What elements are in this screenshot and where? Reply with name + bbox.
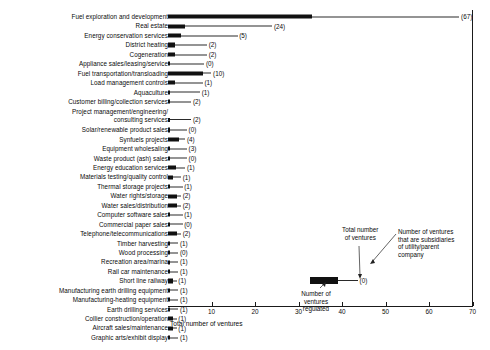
bar-row: Collier construction/operation(1) [0, 314, 490, 323]
subsidiary-count-label: (0) [180, 250, 188, 256]
bar-row: Solar/renewable product sales(0) [0, 125, 490, 134]
bar-row: Fuel transportation/transloading(10) [0, 69, 490, 78]
bar-row: Rail car maintenance(1) [0, 267, 490, 276]
bar-row: Waste product (ash) sales(0) [0, 154, 490, 163]
bar-group: (3) [168, 144, 196, 153]
subsidiary-count-label: (1) [202, 89, 210, 95]
regulated-segment [168, 15, 312, 19]
total-line-segment [179, 139, 186, 140]
category-label: Customer billing/collection services [0, 98, 168, 105]
annotation-regulated-note: Number of ventures regulated [288, 290, 344, 313]
annotation-total-number-of-ventures: Total number of ventures [342, 226, 378, 241]
x-tick-label: 70 [469, 308, 476, 316]
bar-group: (4) [168, 135, 195, 144]
category-label: Aquaculture [0, 89, 168, 96]
x-tick-label: 20 [251, 308, 258, 316]
subsidiary-count-label: (1) [180, 268, 188, 274]
subsidiary-count-label: (4) [187, 136, 195, 142]
subsidiary-count-label: (1) [180, 334, 188, 340]
total-line-segment [173, 177, 181, 178]
bar-group: (2) [168, 201, 190, 210]
category-label: Water sales/distribution [0, 202, 168, 209]
total-line-segment [175, 45, 208, 46]
x-tick [473, 302, 474, 306]
regulated-segment [168, 203, 177, 207]
category-label: Collier construction/operation [0, 315, 168, 322]
bar-row: District heating(2) [0, 40, 490, 49]
subsidiary-count-label: (1) [183, 174, 191, 180]
total-line-segment [170, 224, 183, 225]
subsidiary-count-label: (1) [180, 297, 188, 303]
bar-group: (5) [168, 31, 247, 40]
bar-row: Water rights/storage(2) [0, 191, 490, 200]
x-tick-label: 60 [425, 308, 432, 316]
category-label: Fuel exploration and development [0, 13, 168, 20]
subsidiary-count-label: (1) [180, 240, 188, 246]
regulated-segment [168, 34, 181, 38]
bar-group: (2) [168, 192, 190, 201]
bar-row: Equipment wholesaling(3) [0, 144, 490, 153]
total-line-segment [177, 205, 181, 206]
category-label: Wood processing [0, 249, 168, 256]
category-label: Materials testing/quality control [0, 173, 168, 180]
category-label: Timber harvesting [0, 240, 168, 247]
subsidiary-count-label: (0) [189, 127, 197, 133]
bar-group: (2) [168, 229, 190, 238]
category-label: Energy conservation services [0, 32, 168, 39]
bar-group: (1) [168, 88, 209, 97]
total-line-segment [170, 130, 187, 131]
subsidiary-count-label: (1) [180, 287, 188, 293]
bar-row: Cogeneration(2) [0, 50, 490, 59]
subsidiary-count-label: (2) [193, 99, 201, 105]
bar-group: (1) [168, 286, 188, 295]
total-line-segment [170, 63, 205, 64]
bar-group: (10) [168, 69, 224, 78]
total-line-segment [170, 299, 179, 300]
total-line-segment [175, 82, 203, 83]
subsidiary-count-label: (3) [189, 146, 197, 152]
bar-group: (1) [168, 173, 190, 182]
category-label: Commercial paper sales [0, 221, 168, 228]
total-line-segment [170, 290, 179, 291]
total-line-segment [181, 35, 238, 36]
regulated-segment [168, 137, 179, 141]
bar-row: Energy education services(1) [0, 163, 490, 172]
category-label: Water rights/storage [0, 192, 168, 199]
x-axis-label: Total number of ventures [170, 320, 243, 327]
category-label: Waste product (ash) sales [0, 155, 168, 162]
regulated-segment [168, 194, 177, 198]
total-line-segment [170, 252, 179, 253]
category-label: Real estate [0, 22, 168, 29]
bar-group: (2) [168, 41, 216, 50]
subsidiary-count-label: (2) [193, 117, 201, 123]
subsidiary-count-label: (24) [274, 23, 285, 29]
annotation-subsidiaries-note: Number of ventures that are subsidiaries… [398, 228, 454, 258]
total-line-segment [175, 54, 208, 55]
category-label: Recreation area/marina [0, 258, 168, 265]
x-tick [212, 302, 213, 306]
x-tick [386, 302, 387, 306]
x-tick [255, 302, 256, 306]
category-label: Aircraft sales/maintenance [0, 324, 168, 331]
subsidiary-count-label: (67) [461, 14, 472, 20]
regulated-segment [168, 71, 203, 75]
bar-group: (0) [168, 248, 188, 257]
subsidiary-count-label: (0) [184, 221, 192, 227]
bar-row: Project management/engineering/ consulti… [0, 106, 490, 125]
legend-total-line [338, 280, 358, 281]
bar-row: Fuel exploration and development(67) [0, 12, 490, 21]
bar-row: Energy conservation services(5) [0, 31, 490, 40]
bar-group: (1) [168, 295, 188, 304]
bar-row: Water sales/distribution(2) [0, 201, 490, 210]
subsidiary-count-label: (2) [183, 231, 191, 237]
total-line-segment [170, 337, 179, 338]
regulated-segment [168, 232, 177, 236]
category-label: Energy education services [0, 164, 168, 171]
category-label: Cogeneration [0, 51, 168, 58]
category-label: Thermal storage projects [0, 183, 168, 190]
total-line-segment [170, 214, 183, 215]
bar-rows: Fuel exploration and development(67)Real… [0, 12, 490, 342]
category-label: Graphic arts/exhibit display [0, 334, 168, 341]
bar-row: Computer software sales(1) [0, 210, 490, 219]
bar-group: (0) [168, 125, 196, 134]
